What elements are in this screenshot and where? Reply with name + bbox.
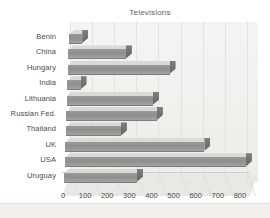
bar-end-cap bbox=[153, 92, 159, 105]
bar-end-cap bbox=[170, 61, 176, 74]
bar-end-cap bbox=[157, 107, 163, 120]
category-label-uk: UK bbox=[45, 140, 56, 149]
x-axis-tick-labels: 0100200300400500600700800 bbox=[62, 191, 262, 203]
category-label-russian-fed: Russian Fed. bbox=[11, 109, 56, 118]
bar-end-cap bbox=[126, 45, 132, 58]
bar-front-face bbox=[68, 49, 126, 59]
category-label-india: India bbox=[39, 78, 56, 87]
bar-front-face bbox=[66, 111, 157, 121]
bar-end-cap bbox=[81, 76, 87, 89]
bar-hungary bbox=[68, 61, 176, 70]
chart-screenshot: Televisions BeninChinaHungaryIndiaLithua… bbox=[0, 0, 270, 218]
bar-front-face bbox=[67, 96, 153, 106]
bar-thailand bbox=[66, 122, 127, 131]
category-label-lithuania: Lithuania bbox=[25, 94, 56, 103]
bar-front-face bbox=[65, 142, 204, 152]
x-tick-400: 400 bbox=[145, 191, 158, 200]
x-tick-700: 700 bbox=[212, 191, 225, 200]
bar-uruguay bbox=[64, 169, 143, 178]
bar-end-cap bbox=[137, 169, 143, 182]
bar-usa bbox=[65, 153, 252, 162]
x-tick-500: 500 bbox=[167, 191, 180, 200]
category-label-benin: Benin bbox=[36, 32, 56, 41]
bar-series bbox=[62, 22, 270, 189]
x-tick-300: 300 bbox=[123, 191, 136, 200]
bar-front-face bbox=[68, 65, 170, 75]
chart-title: Televisions bbox=[0, 8, 270, 17]
bar-benin bbox=[69, 30, 88, 39]
category-axis-labels: BeninChinaHungaryIndiaLithuaniaRussian F… bbox=[0, 22, 58, 189]
bar-front-face bbox=[67, 80, 80, 90]
x-tick-600: 600 bbox=[189, 191, 202, 200]
bar-russian-fed bbox=[66, 107, 163, 116]
page-bottom-band bbox=[0, 204, 270, 218]
bar-end-cap bbox=[204, 138, 210, 151]
category-label-uruguay: Uruguay bbox=[27, 171, 56, 180]
bar-india bbox=[67, 76, 86, 85]
bar-front-face bbox=[66, 126, 121, 136]
category-label-china: China bbox=[36, 47, 56, 56]
x-tick-800: 800 bbox=[234, 191, 247, 200]
x-tick-0: 0 bbox=[61, 191, 65, 200]
bar-front-face bbox=[69, 34, 82, 44]
x-tick-100: 100 bbox=[79, 191, 92, 200]
bar-front-face bbox=[65, 157, 246, 167]
bar-end-cap bbox=[121, 122, 127, 135]
bar-china bbox=[68, 45, 132, 54]
x-tick-200: 200 bbox=[101, 191, 114, 200]
bar-end-cap bbox=[246, 153, 252, 166]
bar-end-cap bbox=[82, 30, 88, 43]
category-label-hungary: Hungary bbox=[27, 63, 56, 72]
bar-front-face bbox=[64, 173, 137, 183]
category-label-usa: USA bbox=[40, 155, 56, 164]
bar-uk bbox=[65, 138, 210, 147]
category-label-thailand: Thailand bbox=[26, 124, 56, 133]
bar-lithuania bbox=[67, 92, 159, 101]
